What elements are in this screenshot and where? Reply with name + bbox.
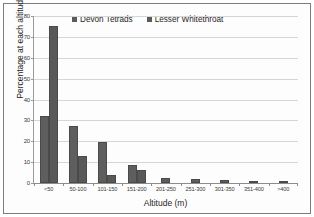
x-tick-label: 351-400	[244, 186, 264, 192]
bar	[220, 180, 229, 183]
x-tick-label: <50	[44, 186, 53, 192]
bar	[137, 170, 146, 183]
x-tick-mark	[239, 183, 240, 186]
bar-group: 201-250	[151, 16, 180, 183]
x-tick-label: 101-150	[97, 186, 117, 192]
bar-groups: <5050-100101-150151-200201-250251-300301…	[34, 16, 298, 183]
y-tick-label: 0	[27, 180, 30, 186]
x-tick-mark	[210, 183, 211, 186]
x-tick-mark	[63, 183, 64, 186]
bar-group: 251-300	[181, 16, 210, 183]
bar-group: 151-200	[122, 16, 151, 183]
bar	[191, 179, 200, 183]
bar	[98, 142, 107, 183]
bar	[279, 181, 288, 183]
bar	[128, 165, 137, 183]
bar	[107, 175, 116, 183]
y-tick-label: 20	[24, 138, 30, 144]
bar	[40, 116, 49, 183]
x-tick-mark	[151, 183, 152, 186]
bar	[161, 178, 170, 183]
bar-group: 351-400	[239, 16, 268, 183]
bar	[249, 181, 258, 183]
x-tick-label: 151-200	[127, 186, 147, 192]
bar	[49, 26, 58, 183]
x-tick-label: 251-300	[185, 186, 205, 192]
x-tick-mark	[122, 183, 123, 186]
bar-group: <50	[34, 16, 63, 183]
bar-group: 50-100	[63, 16, 92, 183]
x-tick-mark	[93, 183, 94, 186]
y-axis-title: Percentage at each altitude	[15, 0, 25, 122]
x-axis-title: Altitude (m)	[33, 198, 298, 208]
gridline	[34, 183, 298, 184]
chart-figure: Devon Tetrads Lesser Whitethroat 0102030…	[0, 0, 314, 217]
x-tick-label: 201-250	[156, 186, 176, 192]
x-tick-mark	[269, 183, 270, 186]
x-tick-label: 50-100	[70, 186, 87, 192]
plot-area: 01020304050607080 <5050-100101-150151-20…	[33, 16, 298, 184]
x-tick-mark	[181, 183, 182, 186]
bar	[78, 156, 87, 183]
x-tick-label: >400	[277, 186, 289, 192]
bar-group: 101-150	[93, 16, 122, 183]
x-tick-mark	[297, 183, 298, 186]
x-tick-mark	[34, 183, 35, 186]
bar	[69, 126, 78, 183]
bar-group: >400	[269, 16, 298, 183]
x-tick-label: 301-350	[215, 186, 235, 192]
y-tick-label: 10	[24, 159, 30, 165]
bar-group: 301-350	[210, 16, 239, 183]
